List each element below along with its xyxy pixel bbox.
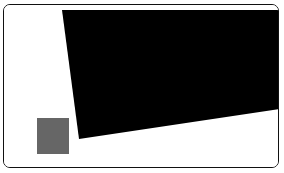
gray-square [37, 118, 69, 154]
rounded-panel [3, 4, 279, 168]
shape-canvas [4, 5, 278, 167]
screenshot-root [0, 0, 284, 173]
